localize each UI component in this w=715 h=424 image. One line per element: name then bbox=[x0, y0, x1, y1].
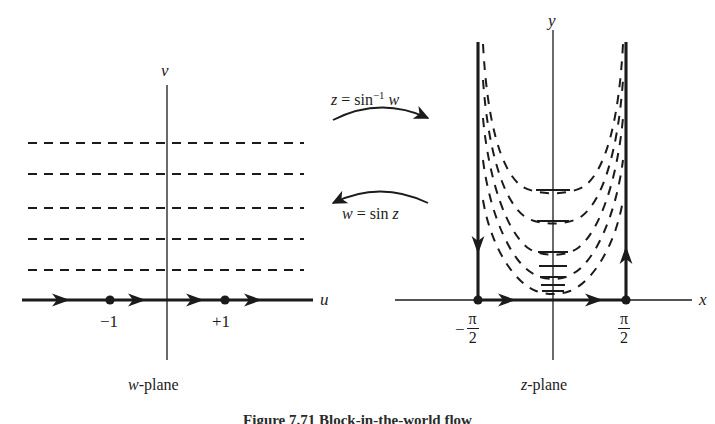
z-plane-flow-arrows bbox=[472, 236, 633, 306]
z-plane-left-boundary-sign: − bbox=[455, 321, 467, 338]
z-plane-left-boundary-numerator: π bbox=[467, 311, 479, 329]
figure-caption: Figure 7.71 Block-in-the-world flow bbox=[0, 412, 715, 424]
z-plane-group bbox=[395, 30, 692, 360]
inverse-map-lhs: w bbox=[342, 205, 353, 222]
w-plane-streamlines bbox=[28, 143, 304, 270]
w-plane-u-axis-label: u bbox=[320, 291, 329, 308]
z-plane-right-boundary-numerator: π bbox=[618, 311, 630, 329]
w-plane-branch-point-minus1-label: −1 bbox=[100, 313, 118, 330]
inverse-map-label: w = sin z bbox=[342, 206, 399, 222]
w-plane-branch-point-plus1 bbox=[220, 295, 229, 304]
figure-container: v u −1 +1 w-plane z = sin−1 w w = sin z … bbox=[0, 0, 715, 424]
z-plane-name-suffix: -plane bbox=[527, 376, 567, 393]
z-plane-x-axis-label: x bbox=[699, 291, 707, 308]
figure-caption-text: Block-in-the-world flow bbox=[319, 412, 472, 424]
z-plane-y-axis-label: y bbox=[548, 12, 556, 29]
transformation-arrows bbox=[333, 107, 428, 203]
forward-map-arg: w bbox=[389, 91, 400, 108]
z-plane-left-boundary-denominator: 2 bbox=[467, 329, 479, 346]
forward-map-fn: sin bbox=[354, 91, 373, 108]
w-plane-name-suffix: -plane bbox=[139, 376, 179, 393]
forward-map-equals: = bbox=[341, 91, 350, 108]
z-plane-left-boundary-fraction: π 2 bbox=[467, 311, 479, 346]
z-plane-corner-point-minus-pi-2 bbox=[473, 295, 482, 304]
z-plane-right-boundary-denominator: 2 bbox=[618, 329, 630, 346]
inverse-map-equals: = bbox=[357, 205, 366, 222]
z-plane-left-boundary-label: − π 2 bbox=[455, 311, 479, 346]
w-plane-name: w-plane bbox=[128, 377, 179, 393]
w-plane-branch-point-plus1-label: +1 bbox=[212, 313, 230, 330]
inverse-map-arg: z bbox=[392, 205, 398, 222]
z-plane-right-boundary-fraction: π 2 bbox=[618, 311, 630, 346]
figure-caption-number: Figure 7.71 bbox=[243, 412, 315, 424]
z-plane-right-boundary-label: π 2 bbox=[618, 311, 630, 346]
z-plane-name: z-plane bbox=[521, 377, 567, 393]
w-plane-name-symbol: w bbox=[128, 376, 139, 393]
forward-map-arrow bbox=[333, 107, 428, 120]
z-plane-corner-point-plus-pi-2 bbox=[621, 295, 630, 304]
forward-map-exponent: −1 bbox=[373, 89, 385, 101]
forward-map-label: z = sin−1 w bbox=[331, 92, 399, 108]
w-plane-group bbox=[22, 85, 313, 360]
forward-map-lhs: z bbox=[331, 91, 337, 108]
inverse-map-arrow bbox=[333, 192, 428, 204]
w-plane-branch-point-minus1 bbox=[105, 295, 114, 304]
inverse-map-fn: sin bbox=[370, 205, 389, 222]
w-plane-v-axis-label: v bbox=[161, 62, 169, 79]
